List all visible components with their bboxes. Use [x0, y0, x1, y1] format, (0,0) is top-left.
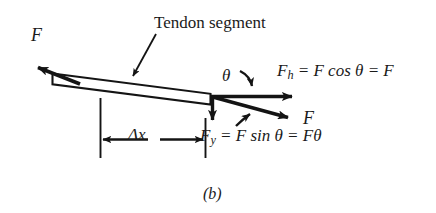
theta-angle-label: θ [222, 67, 230, 84]
tendon-force-diagram: Tendon segment F θ Fh = F cos θ = F F Fy… [0, 0, 436, 213]
horizontal-force-equation: Fh = F cos θ = F [277, 62, 394, 82]
fy-symbol: F [200, 126, 210, 145]
theta-pointer-arrow [240, 71, 252, 86]
fh-body: = F cos θ = F [294, 61, 394, 80]
force-left-label: F [31, 26, 42, 44]
delta-x-extension-lines [101, 98, 206, 158]
force-diagonal-label: F [303, 109, 314, 127]
tendon-label-leader [133, 34, 156, 76]
delta-x-label: Δx [128, 126, 146, 143]
resultant-pointer-arrow [236, 114, 250, 126]
tendon-bar [53, 74, 211, 105]
tendon-segment-label: Tendon segment [154, 14, 266, 31]
vertical-force-equation: Fy = F sin θ = Fθ [200, 127, 322, 147]
fy-body: = F sin θ = Fθ [216, 126, 322, 145]
fh-symbol: F [277, 61, 287, 80]
figure-caption: (b) [203, 186, 222, 202]
